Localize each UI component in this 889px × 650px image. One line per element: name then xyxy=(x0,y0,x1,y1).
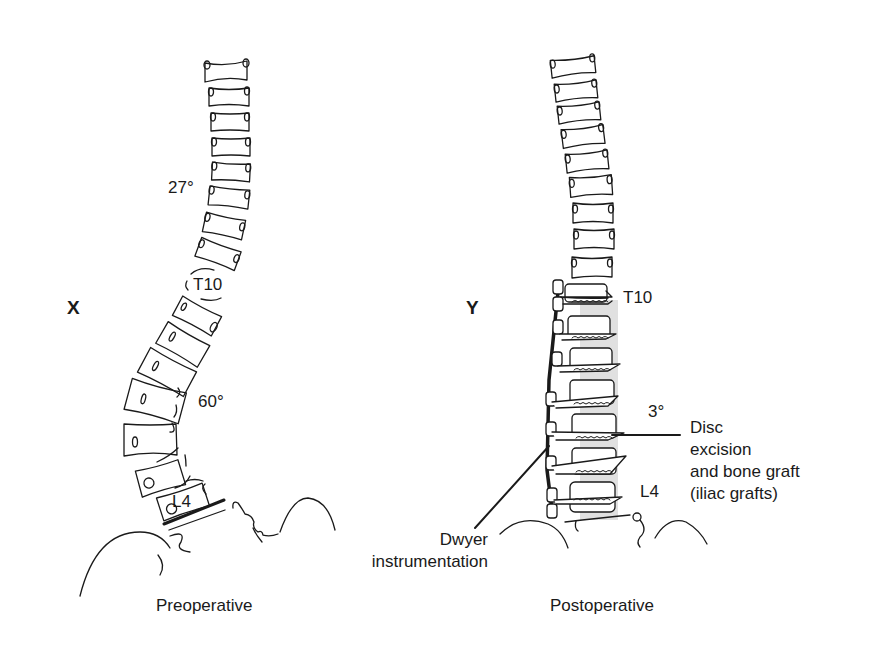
level-label-l4-preop: L4 xyxy=(172,492,191,512)
caption-preoperative: Preoperative xyxy=(156,596,252,616)
preoperative-spine xyxy=(80,59,335,596)
panel-label-x: X xyxy=(67,298,80,318)
disc-annotation-line3: and bone graft xyxy=(690,462,800,482)
caption-postoperative: Postoperative xyxy=(550,596,654,616)
upper-curve-angle: 27° xyxy=(168,178,194,198)
disc-annotation-line4: (iliac grafts) xyxy=(690,484,778,504)
lower-curve-angle: 60° xyxy=(198,392,224,412)
disc-annotation-line1: Disc xyxy=(690,418,723,438)
postoperative-spine xyxy=(475,54,707,548)
instrumentation-annotation-line1: Dwyer xyxy=(380,530,488,550)
level-label-t10-postop: T10 xyxy=(623,288,652,308)
corrected-angle: 3° xyxy=(648,402,664,422)
instrumentation-annotation-line2: instrumentation xyxy=(340,552,488,572)
level-label-t10-preop: T10 xyxy=(193,275,222,295)
level-label-l4-postop: L4 xyxy=(640,482,659,502)
panel-label-y: Y xyxy=(466,298,479,318)
disc-annotation-line2: excision xyxy=(690,440,751,460)
